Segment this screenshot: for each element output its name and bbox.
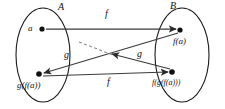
edge-label-left-g: g — [64, 50, 69, 60]
node-a-label: a — [28, 24, 33, 33]
node-fgfa-dot — [169, 69, 175, 75]
edge-label-top-f: f — [105, 9, 108, 19]
set-b-label: B — [170, 1, 176, 11]
node-fa-label: f(a) — [173, 37, 186, 46]
node-gfa-dot — [36, 71, 42, 77]
edge-label-bottom-f: f — [107, 77, 110, 87]
function-composition-diagram: A B a f(a) g(f(a)) f(g(f(a))) f g g f — [0, 0, 225, 109]
diagram-canvas — [0, 0, 225, 109]
edge-continuation-dashed — [79, 42, 113, 55]
edge-label-right-g: g — [137, 49, 142, 59]
edge-gfa-to-fgfa — [43, 72, 168, 76]
node-fgfa-label: f(g(f(a))) — [152, 79, 180, 87]
set-a-label: A — [58, 2, 64, 12]
node-gfa-label: g(f(a)) — [17, 81, 41, 90]
node-a-dot — [39, 26, 44, 31]
node-fa-dot — [177, 27, 182, 32]
set-b-ellipse — [155, 8, 209, 102]
